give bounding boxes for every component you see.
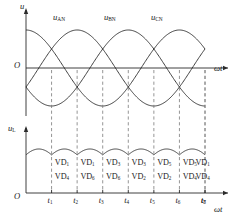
diode-upper-2: VD1	[80, 158, 94, 167]
time-tick-1: t1	[48, 196, 53, 205]
rectified-output-curve	[26, 149, 205, 155]
diode-upper-7: VD1	[196, 158, 210, 167]
time-tick-5: t5	[150, 196, 155, 205]
bottom-origin-label: O	[14, 192, 20, 201]
diode-upper-5: VD5	[157, 158, 171, 167]
figure-container: u O ωt uAN uBN uCN uL O ωt t1t2t3t4t5t6t…	[0, 0, 235, 222]
time-tick-3: t3	[99, 196, 104, 205]
bottom-x-axis-label: ωt	[214, 205, 222, 214]
diode-lower-3: VD6	[106, 172, 120, 181]
curve-label-ucn: uCN	[151, 12, 163, 22]
diode-upper-3: VD3	[106, 158, 120, 167]
time-tick-2: t2	[73, 196, 78, 205]
curve-label-uan: uAN	[53, 12, 65, 22]
diode-upper-1: VD1	[55, 158, 69, 167]
diode-lower-1: VD4	[55, 172, 69, 181]
bottom-y-axis-label: uL	[8, 124, 16, 134]
waveform-svg	[0, 0, 235, 222]
time-tick-4: t4	[124, 196, 129, 205]
top-x-axis-label: ωt	[214, 64, 222, 73]
top-y-axis-label: u	[20, 2, 24, 11]
curve-label-ubn: uBN	[104, 12, 116, 22]
diode-lower-2: VD6	[80, 172, 94, 181]
time-tick-8: t8	[201, 196, 206, 205]
diode-lower-4: VD2	[132, 172, 146, 181]
diode-lower-5: VD2	[157, 172, 171, 181]
diode-upper-4: VD3	[132, 158, 146, 167]
diode-lower-7: VD4	[196, 172, 210, 181]
time-tick-6: t6	[175, 196, 180, 205]
top-origin-label: O	[14, 61, 20, 70]
